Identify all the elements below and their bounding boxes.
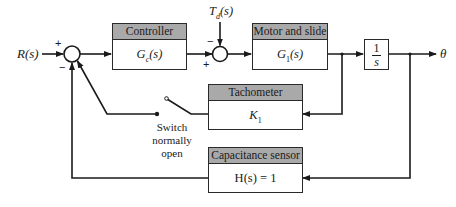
sum1-minus-sign: −: [59, 62, 65, 73]
output-label: θ: [440, 46, 446, 62]
sensor-block: Capacitance sensor H(s) = 1: [208, 147, 303, 193]
motor-transfer: G1(s): [253, 40, 327, 74]
switch-contact: [155, 112, 159, 116]
controller-transfer: Gc(s): [113, 40, 186, 74]
integrator-denominator: s: [365, 56, 388, 69]
controller-block: Controller Gc(s): [112, 23, 187, 70]
tachometer-block: Tachometer K1: [208, 84, 303, 130]
sensor-title: Capacitance sensor: [209, 148, 302, 164]
motor-block: Motor and slide G1(s): [252, 23, 328, 70]
switch-label: Switch normally open: [150, 121, 194, 160]
branch-point-1: [340, 52, 343, 55]
branch-point-2: [408, 52, 411, 55]
sensor-transfer: H(s) = 1: [209, 164, 302, 192]
disturbance-label: Td(s): [209, 4, 233, 21]
summing-junction-2: [213, 47, 228, 62]
sum2-minus-sign: −: [207, 36, 213, 47]
tachometer-title: Tachometer: [209, 85, 302, 101]
sum2-plus-sign: +: [203, 59, 209, 70]
input-label: R(s): [17, 46, 39, 62]
controller-title: Controller: [113, 24, 186, 40]
integrator-block: 1 s: [364, 39, 389, 70]
sum1-plus-sign: +: [55, 38, 61, 49]
tachometer-transfer: K1: [209, 101, 302, 135]
summing-junction-1: [64, 46, 80, 62]
switch-open-terminal: [165, 97, 169, 101]
integrator-numerator: 1: [365, 42, 388, 55]
motor-title: Motor and slide: [253, 24, 327, 40]
